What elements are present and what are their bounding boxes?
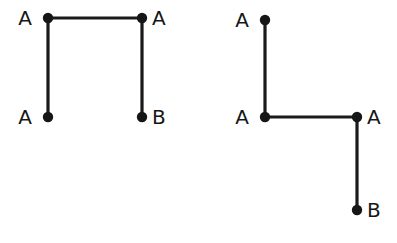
node-label: B	[367, 198, 381, 222]
node-label: A	[367, 105, 381, 129]
graph-node-dot[interactable]	[260, 15, 270, 25]
node-label: A	[18, 6, 32, 30]
graph-node-dot[interactable]	[137, 13, 147, 23]
node-label: B	[152, 105, 166, 129]
diagram-canvas: AAABAAAB	[0, 0, 397, 243]
node-label: A	[18, 105, 32, 129]
graph-node-dot[interactable]	[260, 112, 270, 122]
graph-node-dot[interactable]	[137, 112, 147, 122]
diagram-svg: AAABAAAB	[0, 0, 397, 243]
nodes-layer	[43, 13, 362, 215]
labels-layer: AAABAAAB	[18, 6, 381, 222]
graph-node-dot[interactable]	[43, 13, 53, 23]
graph-node-dot[interactable]	[352, 112, 362, 122]
node-label: A	[152, 6, 166, 30]
graph-node-dot[interactable]	[352, 205, 362, 215]
node-label: A	[235, 105, 249, 129]
node-label: A	[235, 8, 249, 32]
edges-layer	[48, 18, 357, 210]
graph-node-dot[interactable]	[43, 112, 53, 122]
